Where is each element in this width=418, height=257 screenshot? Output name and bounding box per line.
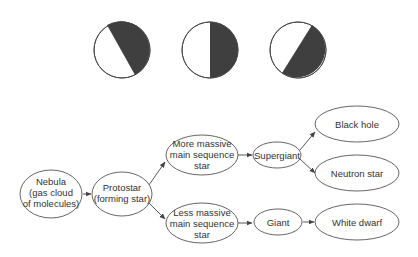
- node-less-massive-star: Less massive main sequence star: [166, 203, 238, 243]
- node-nebula-line-3: of molecules): [23, 198, 80, 209]
- star-lifecycle-diagram: Nebula (gas cloud of molecules) Protosta…: [0, 0, 418, 257]
- node-less-massive-line-2: main sequence: [170, 218, 234, 229]
- node-protostar: Protostar (forming star): [92, 172, 152, 216]
- node-nebula: Nebula (gas cloud of molecules): [20, 170, 82, 218]
- node-protostar-line-2: (forming star): [94, 193, 150, 204]
- node-more-massive-line-1: More massive: [172, 138, 231, 149]
- node-protostar-line-1: Protostar: [103, 182, 142, 193]
- arrow-supergiant-black-hole: [300, 132, 315, 150]
- node-supergiant-label: Supergiant: [254, 150, 300, 161]
- moon-phase-3: [270, 22, 326, 78]
- node-white-dwarf: White dwarf: [315, 204, 399, 240]
- dark-region: [210, 22, 238, 78]
- arrow-protostar-more-massive: [149, 162, 165, 185]
- node-less-massive-line-1: Less massive: [173, 207, 231, 218]
- moon-phase-1: [94, 21, 150, 78]
- node-more-massive-star: More massive main sequence star: [166, 135, 238, 175]
- node-white-dwarf-label: White dwarf: [332, 217, 383, 228]
- node-more-massive-line-2: main sequence: [170, 149, 234, 160]
- node-giant: Giant: [254, 209, 302, 235]
- node-black-hole-label: Black hole: [335, 119, 379, 130]
- moon-phase-2: [182, 22, 238, 78]
- arrow-supergiant-neutron-star: [300, 159, 315, 173]
- node-nebula-line-2: (gas cloud: [29, 187, 73, 198]
- node-nebula-line-1: Nebula: [36, 176, 67, 187]
- node-more-massive-line-3: star: [194, 160, 210, 171]
- arrow-protostar-less-massive: [149, 203, 165, 219]
- node-supergiant: Supergiant: [253, 142, 301, 168]
- node-black-hole: Black hole: [315, 106, 399, 142]
- node-neutron-star-label: Neutron star: [331, 168, 383, 179]
- node-giant-label: Giant: [267, 217, 290, 228]
- node-neutron-star: Neutron star: [315, 155, 399, 191]
- node-less-massive-line-3: star: [194, 229, 210, 240]
